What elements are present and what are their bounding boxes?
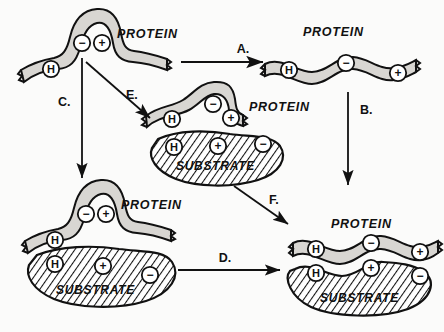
svg-text:+: + (98, 36, 105, 50)
svg-text:H: H (170, 141, 178, 153)
svg-text:+: + (416, 245, 423, 259)
protein-label: PROTEIN (331, 217, 392, 231)
substrate-label: SUBSTRATE (56, 283, 135, 297)
charge-negative: − (205, 96, 221, 112)
charge-hydrogen: H (164, 111, 180, 127)
charge-negative: − (255, 136, 271, 152)
svg-text:H: H (312, 243, 320, 255)
node-native-on-substrate: − + H PROTEIN H + − (22, 180, 182, 307)
charge-hydrogen: H (281, 62, 297, 78)
arrow-F: F. (234, 186, 288, 224)
charge-positive: + (94, 35, 110, 51)
arrow-C: C. (58, 58, 82, 178)
svg-text:+: + (214, 139, 221, 153)
charge-negative: − (412, 268, 428, 284)
charge-negative: − (142, 267, 158, 283)
charge-positive: + (95, 258, 111, 274)
arrow-D-label: D. (219, 251, 232, 265)
charge-positive: + (390, 65, 406, 81)
svg-text:H: H (47, 63, 55, 75)
svg-text:H: H (51, 234, 59, 246)
arrow-B-label: B. (360, 103, 373, 117)
arrow-E-label: E. (126, 88, 138, 102)
charge-hydrogen: H (43, 61, 59, 77)
svg-text:+: + (394, 66, 401, 80)
protein-label: PROTEIN (249, 100, 310, 114)
charge-positive: + (363, 260, 379, 276)
arrow-D: D. (178, 251, 280, 270)
charge-negative: − (338, 55, 354, 71)
charge-positive: + (98, 206, 114, 222)
svg-text:−: − (209, 97, 216, 111)
node-denatured-protein: H − + PROTEIN (261, 25, 420, 84)
arrow-C-label: C. (58, 95, 71, 109)
charge-positive: + (223, 110, 239, 126)
charge-hydrogen: H (47, 256, 63, 272)
protein-substrate-diagram: − + H PROTEIN H − (0, 0, 444, 332)
charge-hydrogen: H (308, 265, 324, 281)
charge-hydrogen: H (47, 232, 63, 248)
svg-text:−: − (342, 56, 349, 70)
node-denatured-bound-substrate: H − + PROTEIN H + − (288, 217, 442, 316)
svg-text:−: − (78, 36, 85, 50)
svg-text:−: − (367, 236, 374, 250)
substrate-label: SUBSTRATE (320, 291, 399, 305)
arrow-B: B. (348, 92, 373, 185)
svg-text:−: − (259, 137, 266, 151)
charge-hydrogen: H (166, 139, 182, 155)
charge-negative: − (74, 35, 90, 51)
arrow-A-label: A. (237, 42, 250, 56)
svg-text:−: − (416, 269, 423, 283)
svg-text:+: + (99, 259, 106, 273)
arrow-A: A. (181, 42, 263, 62)
svg-text:+: + (227, 111, 234, 125)
arrow-E: E. (86, 62, 150, 118)
svg-text:+: + (102, 207, 109, 221)
svg-text:−: − (146, 268, 153, 282)
charge-negative: − (78, 206, 94, 222)
svg-text:H: H (51, 258, 59, 270)
charge-hydrogen: H (308, 241, 324, 257)
protein-label: PROTEIN (303, 25, 364, 39)
svg-text:+: + (367, 261, 374, 275)
substrate-label: SUBSTRATE (176, 159, 255, 173)
protein-label: PROTEIN (117, 27, 178, 41)
svg-text:H: H (168, 113, 176, 125)
charge-positive: + (210, 138, 226, 154)
arrow-F-label: F. (269, 193, 279, 207)
svg-text:H: H (285, 64, 293, 76)
charge-positive: + (412, 244, 428, 260)
svg-text:H: H (312, 267, 320, 279)
node-denatured-plus-substrate: H − + PROTEIN H + − (142, 82, 310, 186)
svg-text:−: − (82, 207, 89, 221)
node-native-protein: − + H PROTEIN (18, 9, 178, 82)
charge-negative: − (363, 235, 379, 251)
protein-label: PROTEIN (121, 198, 182, 212)
